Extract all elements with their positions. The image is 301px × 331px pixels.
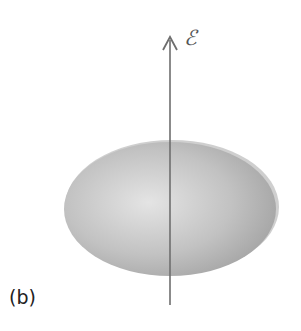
panel-label: (b)	[9, 286, 36, 308]
diagram-canvas	[0, 0, 301, 331]
oblate-ellipsoid	[64, 140, 279, 276]
field-label: ℰ	[184, 26, 197, 50]
